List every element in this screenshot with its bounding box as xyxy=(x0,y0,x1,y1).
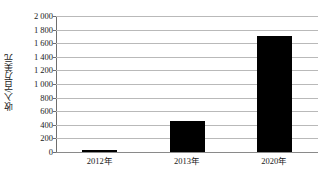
bar xyxy=(82,150,117,152)
y-tick-label: 200 xyxy=(40,134,53,143)
y-tickmark xyxy=(53,43,56,44)
gridline xyxy=(56,30,318,31)
y-tick-label: 1 000 xyxy=(34,80,53,89)
y-tickmark xyxy=(53,70,56,71)
y-tickmark xyxy=(53,30,56,31)
y-tick-label: 400 xyxy=(40,121,53,130)
y-tick-label: 1 400 xyxy=(34,53,53,62)
y-tickmark xyxy=(53,16,56,17)
y-tickmark xyxy=(53,138,56,139)
bar xyxy=(170,121,205,152)
y-tick-label: 1 200 xyxy=(34,66,53,75)
y-tick-label: 2 000 xyxy=(34,12,53,21)
y-axis-tick-labels: 2 0001 8001 6001 4001 2001 0008006004002… xyxy=(14,11,56,153)
y-tickmark xyxy=(53,84,56,85)
x-axis-tick-labels: 2012年2013年2020年 xyxy=(56,155,318,171)
y-tickmark xyxy=(53,125,56,126)
y-axis-title-label: 收入/百万美元 xyxy=(4,54,13,111)
y-tickmark xyxy=(53,98,56,99)
y-tick-label: 800 xyxy=(40,93,53,102)
y-tickmark xyxy=(53,57,56,58)
y-tick-label: 600 xyxy=(40,107,53,116)
x-tick-label: 2013年 xyxy=(174,157,200,166)
y-tickmark xyxy=(53,111,56,112)
gridline xyxy=(56,16,318,17)
x-tick-label: 2020年 xyxy=(261,157,287,166)
y-tick-label: 1 800 xyxy=(34,25,53,34)
x-tick-label: 2012年 xyxy=(87,157,113,166)
y-tickmark xyxy=(53,152,56,153)
bar-chart: 收入/百万美元 2 0001 8001 6001 4001 2001 00080… xyxy=(0,0,324,179)
y-tick-label: 1 600 xyxy=(34,39,53,48)
plot-area xyxy=(56,16,318,152)
axis-baseline xyxy=(56,152,318,153)
bar xyxy=(257,36,292,152)
